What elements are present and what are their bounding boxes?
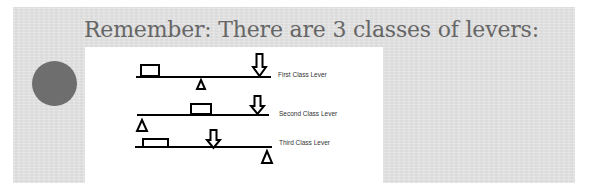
load-box-icon <box>191 104 211 114</box>
second-class-lever <box>137 96 269 131</box>
effort-arrow-down-icon <box>251 96 264 114</box>
load-box-icon <box>141 65 159 76</box>
effort-arrow-down-icon <box>253 54 266 76</box>
slide: Remember: There are 3 classes of levers: <box>13 7 575 183</box>
effort-arrow-down-icon <box>207 130 220 148</box>
third-class-lever-label: Third Class Lever <box>279 139 330 147</box>
fulcrum-triangle-icon <box>137 120 147 131</box>
decorative-circle <box>32 61 77 106</box>
lever-diagram-graphic <box>85 47 383 184</box>
second-class-lever-label: Second Class Lever <box>279 110 337 118</box>
slide-title: Remember: There are 3 classes of levers: <box>84 16 539 44</box>
lever-diagram: First Class Lever Second Class Lever Thi… <box>85 47 383 184</box>
load-box-icon <box>143 139 168 147</box>
first-class-lever <box>136 54 271 89</box>
fulcrum-triangle-icon <box>262 151 272 163</box>
first-class-lever-label: First Class Lever <box>278 71 327 79</box>
fulcrum-triangle-icon <box>197 80 205 89</box>
third-class-lever <box>135 130 272 163</box>
